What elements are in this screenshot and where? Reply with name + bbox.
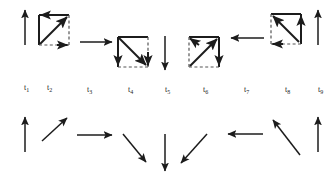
time-label-t3: t3 xyxy=(87,86,92,94)
figure-root: t1 t2 t3 t4 t5 t6 t7 t8 t9 xyxy=(0,0,336,180)
time-label-t4: t4 xyxy=(128,86,133,94)
time-label-t6: t6 xyxy=(203,86,208,94)
time-label-t1: t1 xyxy=(24,84,29,92)
time-label-t7: t7 xyxy=(244,86,249,94)
time-label-t5: t5 xyxy=(165,86,170,94)
time-label-t8: t8 xyxy=(285,86,290,94)
time-label-t2: t2 xyxy=(47,84,52,92)
time-label-t9: t9 xyxy=(318,86,323,94)
time-step-label-row: t1 t2 t3 t4 t5 t6 t7 t8 t9 xyxy=(0,0,336,180)
